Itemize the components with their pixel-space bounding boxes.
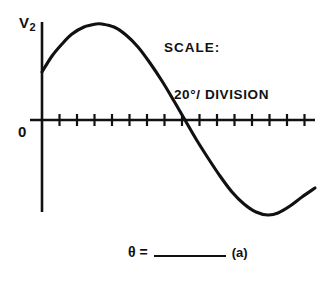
scale-note: SCALE: 20°/ DIVISION bbox=[164, 14, 269, 128]
y-axis-label: V2 bbox=[19, 15, 36, 33]
y-axis-label-text: V bbox=[19, 14, 30, 31]
theta-symbol: θ bbox=[128, 244, 136, 260]
y-axis-label-subscript: 2 bbox=[30, 21, 36, 33]
answer-prompt: θ = (a) bbox=[128, 243, 248, 260]
scale-note-value: 20°/ DIVISION bbox=[174, 88, 269, 102]
figure-panel: V2 0 SCALE: 20°/ DIVISION θ = (a) bbox=[0, 0, 333, 281]
panel-label: (a) bbox=[232, 245, 248, 260]
answer-blank-field[interactable] bbox=[154, 243, 226, 257]
equals-sign: = bbox=[140, 244, 148, 260]
origin-label: 0 bbox=[18, 124, 27, 139]
scale-note-title: SCALE: bbox=[164, 41, 269, 55]
